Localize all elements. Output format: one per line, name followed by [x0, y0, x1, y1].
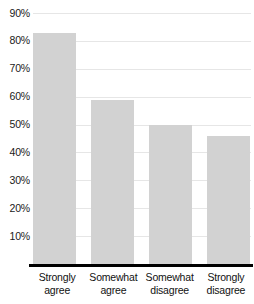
ytick-label-60: 60% [0, 91, 30, 102]
xtick-label-somewhat-agree: Somewhat agree [85, 270, 141, 304]
xtick-line1: Somewhat [89, 271, 137, 283]
xtick-line1: Strongly [39, 271, 76, 283]
bar-strongly-disagree [207, 136, 250, 264]
ytick-label-20: 20% [0, 203, 30, 214]
ytick-label-50: 50% [0, 119, 30, 130]
ytick-label-40: 40% [0, 147, 30, 158]
x-axis-line [29, 264, 253, 267]
bar-chart: 90% 80% 70% 60% 50% 40% 30% 20% 10% Stro… [0, 0, 254, 304]
gridline-90 [33, 13, 251, 14]
xtick-line2: agree [29, 284, 85, 297]
x-axis-labels: Strongly agree Somewhat agree Somewhat d… [29, 270, 254, 304]
xtick-label-strongly-disagree: Strongly disagree [198, 270, 254, 304]
ytick-label-70: 70% [0, 63, 30, 74]
plot-area [33, 0, 251, 264]
xtick-label-strongly-agree: Strongly agree [29, 270, 85, 304]
xtick-line2: agree [85, 284, 141, 297]
ytick-label-80: 80% [0, 35, 30, 46]
bar-strongly-agree [33, 33, 76, 265]
xtick-line2: disagree [198, 284, 254, 297]
xtick-label-somewhat-disagree: Somewhat disagree [142, 270, 198, 304]
ytick-label-10: 10% [0, 231, 30, 242]
xtick-line1: Somewhat [146, 271, 194, 283]
xtick-line1: Strongly [207, 271, 244, 283]
xtick-line2: disagree [142, 284, 198, 297]
ytick-label-30: 30% [0, 175, 30, 186]
ytick-label-90: 90% [0, 8, 30, 19]
bar-somewhat-disagree [149, 125, 192, 264]
bar-somewhat-agree [91, 100, 134, 265]
